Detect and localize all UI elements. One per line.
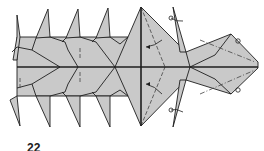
mountain-marker-lower-icon — [236, 88, 240, 92]
step-number: 22 — [27, 142, 40, 151]
origami-diagram — [0, 0, 264, 151]
